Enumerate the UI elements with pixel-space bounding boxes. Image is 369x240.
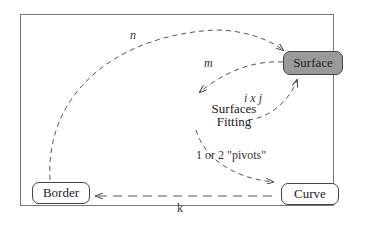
fitting-line-2: Fitting — [206, 115, 262, 128]
curve-node: Curve — [281, 183, 339, 205]
edge-label-k: k — [177, 201, 183, 216]
edge-label-m: m — [204, 56, 213, 71]
border-node: Border — [32, 182, 90, 204]
edge-label-ixj: i x j — [244, 91, 262, 106]
surface-node: Surface — [283, 51, 343, 75]
edge-label-pivots: 1 or 2 "pivots" — [196, 148, 266, 163]
edge-label-n: n — [130, 28, 136, 43]
